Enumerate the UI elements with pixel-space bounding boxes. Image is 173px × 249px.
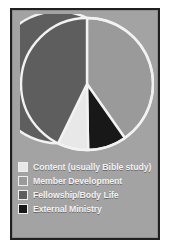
- legend-swatch-content: [18, 162, 28, 172]
- chart-panel: Content (usually Bible study) Member Dev…: [10, 8, 160, 240]
- legend-label-external-ministry: External Ministry: [33, 203, 102, 214]
- legend: Content (usually Bible study) Member Dev…: [16, 160, 158, 216]
- legend-label-fellowship-body-life: Fellowship/Body Life: [33, 189, 119, 200]
- legend-label-content: Content (usually Bible study): [33, 161, 151, 172]
- pie-chart-figure: Content (usually Bible study) Member Dev…: [0, 0, 173, 249]
- legend-swatch-member-development: [18, 176, 28, 186]
- legend-swatch-external-ministry: [18, 204, 28, 214]
- legend-item-fellowship-body-life: Fellowship/Body Life: [16, 188, 158, 201]
- legend-item-content: Content (usually Bible study): [16, 160, 158, 173]
- pie-chart: [20, 14, 154, 154]
- legend-item-external-ministry: External Ministry: [16, 202, 158, 215]
- legend-label-member-development: Member Development: [33, 175, 122, 186]
- legend-swatch-fellowship-body-life: [18, 190, 28, 200]
- pie-chart-svg: [20, 14, 154, 154]
- legend-item-member-development: Member Development: [16, 174, 158, 187]
